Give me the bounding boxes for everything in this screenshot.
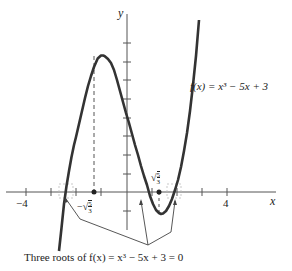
arrowhead-2 — [139, 199, 143, 205]
pos-sqrt-5-3-label: √53 — [151, 171, 160, 186]
function-label: f(x) = x³ − 5x + 3 — [190, 80, 268, 92]
y-axis-label: y — [118, 6, 123, 21]
caption-three-roots: Three roots of f(x) = x³ − 5x + 3 = 0 — [24, 251, 183, 263]
arrowhead-3 — [173, 199, 177, 205]
x-axis-label: x — [270, 194, 275, 209]
neg-crit-point-dot — [92, 190, 97, 195]
neg-sqrt-5-3-label: −√53 — [77, 200, 92, 215]
x-tick-label-4: 4 — [223, 197, 229, 209]
pos-crit-point-dot — [157, 190, 162, 195]
cubic-graph — [0, 0, 292, 271]
x-tick-label-neg4: −4 — [16, 197, 28, 209]
